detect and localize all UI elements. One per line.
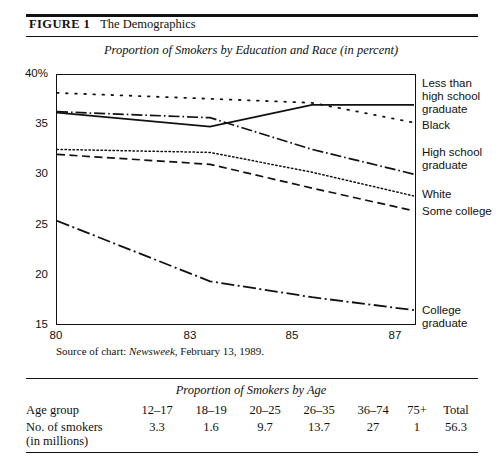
cell-smokers-4: 27 bbox=[346, 420, 400, 448]
series-label-less-than-high-school-graduate: Less than high school graduate bbox=[422, 77, 480, 116]
source-prefix: Source of chart: bbox=[56, 345, 129, 357]
series-line-some-college bbox=[57, 154, 414, 211]
row-header-no-of-smokers: No. of smokers (in millions) bbox=[26, 420, 130, 448]
series-label-black: Black bbox=[422, 119, 450, 132]
age-table: Age group 12–17 18–19 20–25 26–35 36–74 … bbox=[26, 403, 478, 448]
age-table-title: Proportion of Smokers by Age bbox=[0, 383, 502, 398]
chart-title: Proportion of Smokers by Education and R… bbox=[0, 43, 502, 58]
series-label-white: White bbox=[422, 188, 451, 201]
cell-age-group-4: 36–74 bbox=[346, 403, 400, 420]
series-line-less-than-high-school-graduate bbox=[57, 105, 414, 127]
figure-page: FIGURE 1The Demographics Proportion of S… bbox=[0, 0, 502, 467]
cell-smokers-5: 1 bbox=[400, 420, 434, 448]
x-tick-label-85: 85 bbox=[272, 329, 312, 341]
source-publication: Newsweek bbox=[129, 345, 175, 357]
cell-age-group-total: Total bbox=[434, 403, 478, 420]
cell-smokers-2: 9.7 bbox=[238, 420, 292, 448]
table-top-rule bbox=[26, 378, 478, 379]
row-header-age-group: Age group bbox=[26, 403, 130, 420]
chart-source-note: Source of chart: Newsweek, February 13, … bbox=[56, 345, 264, 357]
cell-age-group-0: 12–17 bbox=[130, 403, 184, 420]
table-row-no-of-smokers: No. of smokers (in millions) 3.3 1.6 9.7… bbox=[26, 420, 478, 448]
x-tick-label-80: 80 bbox=[36, 329, 76, 341]
series-label-high-school-graduate: High school graduate bbox=[422, 146, 482, 172]
figure-number: FIGURE 1 bbox=[29, 17, 90, 31]
chart-plot-area bbox=[56, 74, 416, 325]
cell-age-group-1: 18–19 bbox=[184, 403, 238, 420]
figure-title: The Demographics bbox=[100, 17, 195, 31]
table-row-age-group: Age group 12–17 18–19 20–25 26–35 36–74 … bbox=[26, 403, 478, 420]
y-tick-label-30: 30 bbox=[14, 167, 48, 179]
cell-smokers-total: 56.3 bbox=[434, 420, 478, 448]
series-line-college-graduate bbox=[57, 221, 414, 310]
figure-header: FIGURE 1The Demographics bbox=[29, 17, 196, 32]
source-suffix: , February 13, 1989. bbox=[175, 345, 264, 357]
figure-header-rule bbox=[26, 36, 478, 37]
cell-age-group-2: 20–25 bbox=[238, 403, 292, 420]
x-tick-label-83: 83 bbox=[170, 329, 210, 341]
series-line-white bbox=[57, 149, 414, 196]
cell-age-group-5: 75+ bbox=[400, 403, 434, 420]
series-label-college-graduate: College graduate bbox=[422, 304, 467, 330]
cell-smokers-0: 3.3 bbox=[130, 420, 184, 448]
table-bottom-rule bbox=[26, 452, 478, 453]
series-label-some-college: Some college bbox=[422, 205, 492, 218]
x-tick-label-87: 87 bbox=[375, 329, 415, 341]
y-tick-label-25: 25 bbox=[14, 218, 48, 230]
chart-svg bbox=[57, 75, 414, 323]
cell-smokers-3: 13.7 bbox=[292, 420, 346, 448]
y-tick-label-35: 35 bbox=[14, 117, 48, 129]
cell-smokers-1: 1.6 bbox=[184, 420, 238, 448]
cell-age-group-3: 26–35 bbox=[292, 403, 346, 420]
y-tick-label-20: 20 bbox=[14, 268, 48, 280]
y-tick-label-40: 40% bbox=[14, 67, 48, 79]
